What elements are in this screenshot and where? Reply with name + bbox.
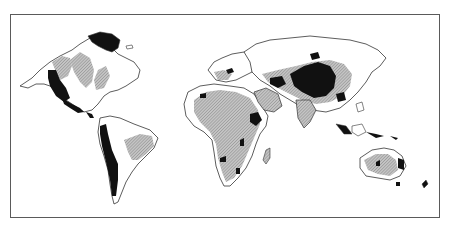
south-america	[98, 116, 158, 204]
madagascar	[263, 148, 270, 164]
australia	[360, 148, 406, 186]
north-america	[20, 36, 140, 118]
new-zealand	[422, 180, 428, 188]
africa	[184, 84, 268, 186]
southeast-asia	[336, 102, 398, 140]
world-map	[0, 0, 452, 231]
